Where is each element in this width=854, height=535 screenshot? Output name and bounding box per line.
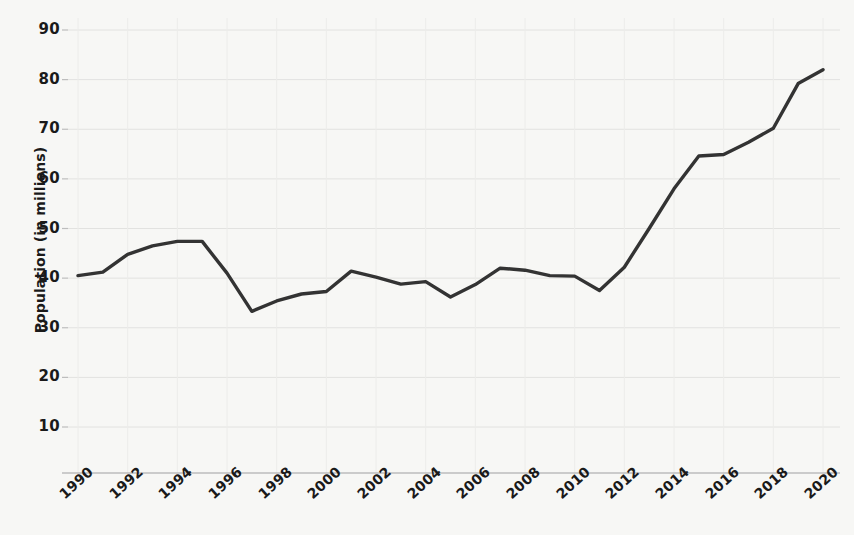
y-axis-title: Population (in millions) [32, 130, 48, 350]
plot-area [0, 0, 854, 535]
population-line [78, 70, 823, 312]
horizontal-gridlines [68, 30, 840, 427]
y-tick-label: 80 [20, 70, 60, 88]
y-tick-label: 20 [20, 367, 60, 385]
data-line-group [78, 70, 823, 312]
vertical-gridlines [78, 18, 823, 473]
y-tick-label: 10 [20, 417, 60, 435]
y-tick-label: 90 [20, 20, 60, 38]
line-chart: 102030405060708090 199019921994199619982… [0, 0, 854, 535]
